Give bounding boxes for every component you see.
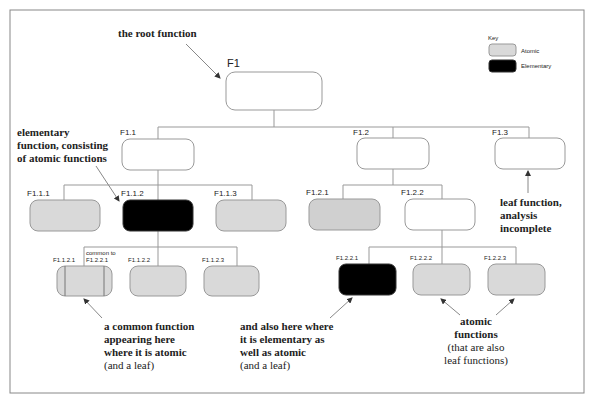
node-f1-2	[357, 138, 429, 169]
svg-text:analysis: analysis	[500, 209, 538, 221]
label-f1-2-1: F1.2.1	[306, 188, 329, 197]
svg-text:well as atomic: well as atomic	[240, 346, 306, 358]
svg-text:leaf functions): leaf functions)	[444, 354, 508, 367]
svg-text:(and a leaf): (and a leaf)	[240, 359, 290, 372]
node-f1-2-2-2	[413, 264, 470, 295]
node-f1-1	[122, 139, 194, 170]
common-to-note: common to	[86, 250, 116, 256]
svg-text:and also here where: and also here where	[240, 320, 334, 332]
svg-text:where it is atomic: where it is atomic	[104, 346, 187, 358]
common-to-ref: F1.2.2.1	[86, 257, 109, 263]
label-f1-1-2-2: F1.1.2.2	[128, 257, 151, 263]
label-f1-2: F1.2	[353, 128, 370, 137]
label-f1: F1	[227, 57, 240, 69]
svg-text:a common function: a common function	[104, 320, 194, 332]
node-f1-1-2-3	[204, 266, 259, 296]
svg-text:elementary: elementary	[17, 126, 70, 138]
node-f1-1-3	[216, 200, 286, 231]
svg-text:(and a leaf): (and a leaf)	[104, 359, 154, 372]
function-hierarchy-diagram: F1 F1.1 F1.2 F1.3 F1.1.1 F1.1.2 F1.1.3 F…	[0, 0, 592, 399]
node-f1-3	[495, 138, 565, 169]
svg-text:leaf function,: leaf function,	[500, 196, 562, 208]
label-f1-1-1: F1.1.1	[27, 189, 50, 198]
legend-label-atomic: Atomic	[521, 48, 539, 54]
label-f1-2-2-2: F1.2.2.2	[410, 255, 433, 261]
node-f1-1-2	[123, 200, 193, 231]
node-f1-2-1	[309, 199, 380, 230]
node-f1-1-2-2	[130, 266, 186, 296]
label-f1-1-2-1: F1.1.2.1	[53, 257, 76, 263]
label-f1-3: F1.3	[492, 128, 509, 137]
legend-title: Key	[488, 35, 498, 41]
node-f1-2-2	[405, 199, 475, 230]
svg-text:(that are also: (that are also	[448, 341, 505, 354]
svg-text:functions: functions	[454, 328, 498, 340]
label-f1-1-2-3: F1.1.2.3	[202, 257, 225, 263]
legend-swatch-atomic	[489, 44, 516, 56]
label-f1-1-3: F1.1.3	[214, 189, 237, 198]
label-f1-1: F1.1	[120, 128, 137, 137]
svg-text:atomic: atomic	[460, 315, 492, 327]
node-f1-2-2-1	[339, 264, 396, 295]
node-f1	[226, 72, 322, 110]
svg-text:function, consisting: function, consisting	[17, 139, 109, 151]
svg-text:of atomic functions: of atomic functions	[17, 152, 108, 164]
annotation-root: the root function	[118, 27, 197, 39]
node-f1-1-1	[30, 200, 100, 231]
svg-text:it is elementary as: it is elementary as	[240, 333, 325, 345]
label-f1-1-2: F1.1.2	[121, 189, 144, 198]
label-f1-2-2: F1.2.2	[401, 188, 424, 197]
legend-swatch-elementary	[489, 60, 516, 72]
label-f1-2-2-1: F1.2.2.1	[336, 255, 359, 261]
legend-label-elementary: Elementary	[521, 63, 551, 69]
label-f1-2-2-3: F1.2.2.3	[484, 255, 507, 261]
node-f1-2-2-3	[488, 264, 545, 295]
svg-text:incomplete: incomplete	[500, 222, 551, 234]
svg-text:appearing here: appearing here	[104, 333, 175, 345]
